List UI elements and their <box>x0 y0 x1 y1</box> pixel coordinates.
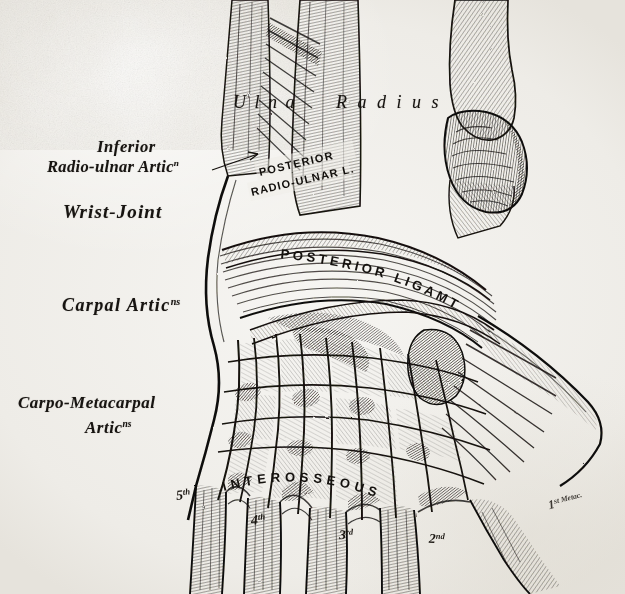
wrist-joint-label: Wrist-Joint <box>63 202 162 223</box>
radio-ulnar-artic-superscript: n <box>174 158 179 168</box>
radius-label: R a d i u s <box>336 93 442 112</box>
inferior-radio-ulnar-articulation-label: Radio-ulnar Articn <box>47 158 179 176</box>
inferior-label: Inferior <box>97 138 156 156</box>
metacarpal-ordinal-3: 3rd <box>339 527 354 543</box>
carpal-artic-superscript: ns <box>171 296 181 307</box>
anatomical-plate: POSTERIOR LIGAMT INTEROSSEOUS U l n a R … <box>0 0 625 594</box>
metacarpal-3-suffix: rd <box>345 528 353 537</box>
radio-ulnar-artic-text: Radio-ulnar Artic <box>47 157 174 176</box>
ulna-label: U l n a <box>233 93 297 112</box>
metacarpal-4-suffix: th <box>257 512 265 522</box>
carpal-articulations-label: Carpal Articns <box>62 296 180 315</box>
metacarpal-5-suffix: th <box>182 486 190 497</box>
metacarpal-ordinal-2: 2nd <box>429 531 445 548</box>
metacarpal-2-suffix: nd <box>436 532 445 541</box>
carpo-metacarpal-artic-superscript: ns <box>122 419 131 429</box>
carpo-metacarpal-artic-text: Artic <box>85 418 122 437</box>
metacarpal-ordinal-4: 4th <box>250 512 265 529</box>
carpo-metacarpal-articulations-label: Articns <box>85 419 131 437</box>
carpal-artic-text: Carpal Artic <box>62 295 171 315</box>
carpo-metacarpal-label: Carpo-Metacarpal <box>18 394 155 412</box>
metacarpal-ordinal-5: 5th <box>175 486 191 504</box>
